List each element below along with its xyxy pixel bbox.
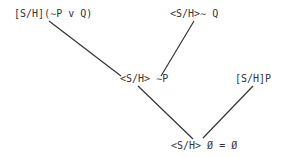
node-n1: [S/H](∼P v Q) bbox=[14, 8, 92, 20]
node-n2: <S/H>∼ Q bbox=[170, 8, 218, 20]
edge-n1-n3 bbox=[49, 21, 121, 76]
node-n4: [S/H]P bbox=[235, 73, 271, 85]
node-n3: <S/H> ∼P bbox=[120, 73, 168, 85]
edge-n2-n3 bbox=[161, 21, 194, 76]
edge-n3-n5 bbox=[138, 86, 193, 139]
edge-n4-n5 bbox=[203, 86, 253, 138]
node-n5: <S/H> Ø = Ø bbox=[171, 140, 237, 152]
